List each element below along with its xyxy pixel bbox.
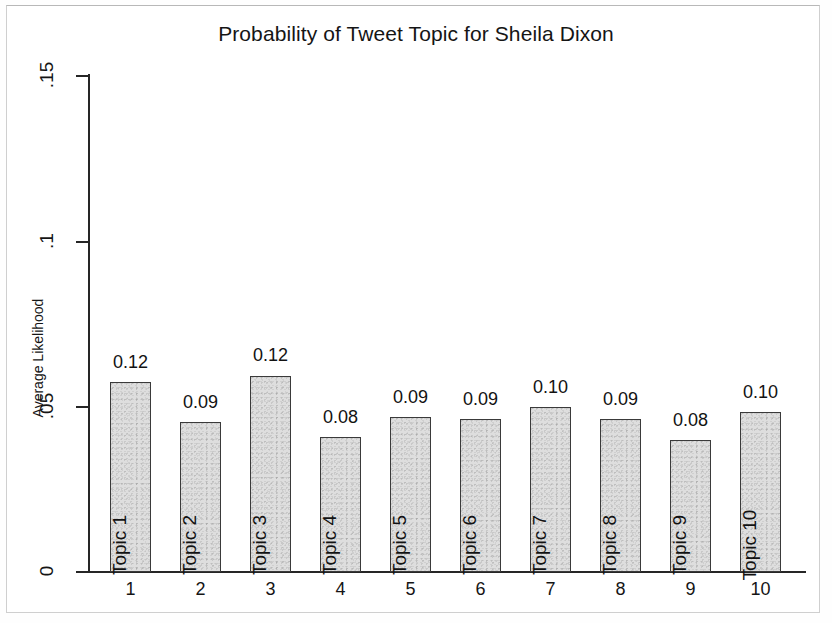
x-tick-label-8: 8 [600,579,641,600]
bar-inner-label-1: Topic 1 [109,515,131,575]
bar-inner-label-5: Topic 5 [389,515,411,575]
bar-inner-label-9: Topic 9 [669,515,691,575]
bar-6[interactable]: Topic 6 [460,419,501,572]
bar-value-label-10: 0.10 [730,382,791,403]
y-axis-line [88,74,90,573]
bar-value-label-7: 0.10 [520,377,581,398]
bar-inner-label-4: Topic 4 [319,515,341,575]
bar-9[interactable]: Topic 9 [670,440,711,572]
x-tick-label-5: 5 [390,579,431,600]
bar-7[interactable]: Topic 7 [530,407,571,572]
x-tick-label-6: 6 [460,579,501,600]
bar-value-label-4: 0.08 [310,407,371,428]
x-tick-label-4: 4 [320,579,361,600]
bar-value-label-5: 0.09 [380,387,441,408]
bar-8[interactable]: Topic 8 [600,419,641,572]
bar-inner-label-2: Topic 2 [179,515,201,575]
bar-10[interactable]: Topic 10 [740,412,781,572]
bar-inner-label-10: Topic 10 [739,510,761,581]
x-tick-label-9: 9 [670,579,711,600]
bar-value-label-2: 0.09 [170,392,231,413]
bar-4[interactable]: Topic 4 [320,437,361,572]
bar-5[interactable]: Topic 5 [390,417,431,572]
figure-root: Probability of Tweet Topic for Sheila Di… [0,0,832,623]
bar-inner-label-8: Topic 8 [599,515,621,575]
y-tick-label-0: 0 [36,554,58,588]
bar-2[interactable]: Topic 2 [180,422,221,572]
x-tick-label-1: 1 [110,579,151,600]
y-axis-title: Average Likelihood [30,258,46,458]
bar-3[interactable]: Topic 3 [250,376,291,572]
bar-inner-label-6: Topic 6 [459,515,481,575]
y-tick-mark-05 [76,406,89,408]
bar-inner-label-7: Topic 7 [529,515,551,575]
plot-area: 0 .05 .1 .15 Average Likelihood Topic 1 … [0,0,832,623]
bar-value-label-1: 0.12 [100,352,161,373]
y-tick-mark-15 [76,75,89,77]
bar-value-label-9: 0.08 [660,410,721,431]
bar-1[interactable]: Topic 1 [110,382,151,572]
x-tick-label-7: 7 [530,579,571,600]
bar-value-label-3: 0.12 [240,345,301,366]
x-tick-label-10: 10 [740,579,781,600]
y-tick-mark-1 [76,241,89,243]
bar-inner-label-3: Topic 3 [249,515,271,575]
y-tick-label-15: .15 [36,58,58,92]
y-tick-label-1: .1 [36,224,58,258]
y-tick-mark-0 [76,571,89,573]
x-tick-label-3: 3 [250,579,291,600]
bar-value-label-6: 0.09 [450,389,511,410]
bar-value-label-8: 0.09 [590,389,651,410]
x-tick-label-2: 2 [180,579,221,600]
